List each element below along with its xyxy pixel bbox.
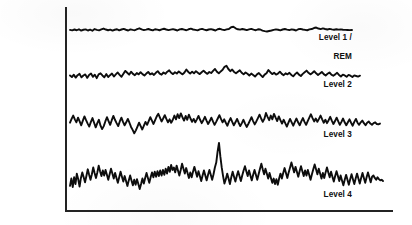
level-label-line1: Level 3 bbox=[324, 130, 352, 139]
level-label-line2: REM bbox=[334, 52, 353, 61]
level-label-level-3: Level 3 bbox=[292, 121, 352, 149]
level-label-line1: Level 2 bbox=[324, 80, 352, 89]
level-label-level-2: Level 2 bbox=[292, 71, 352, 99]
level-label-line1: Level 1 / bbox=[319, 33, 352, 42]
level-label-line1: Level 4 bbox=[324, 190, 352, 199]
sleep-level-eeg-figure: Level 1 / REM Level 2 Level 3 Level 4 bbox=[0, 0, 412, 225]
level-label-level-1-rem: Level 1 / REM bbox=[292, 24, 352, 71]
level-label-level-4: Level 4 bbox=[292, 181, 352, 209]
